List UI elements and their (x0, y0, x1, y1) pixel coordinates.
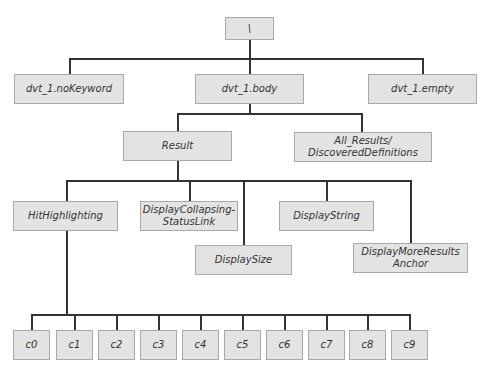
connector (367, 314, 369, 330)
connector (74, 314, 76, 330)
node-c3: c3 (140, 330, 177, 360)
connector (249, 40, 251, 58)
connector (66, 231, 68, 314)
node-c8: c8 (349, 330, 386, 360)
connector (189, 180, 191, 201)
connector (31, 314, 410, 316)
connector (116, 314, 118, 330)
connector (177, 113, 362, 115)
connector (249, 58, 251, 74)
node-displaymoreresults: DisplayMoreResults Anchor (353, 243, 468, 273)
node-hithighlighting: HitHighlighting (13, 201, 118, 231)
connector (69, 58, 71, 74)
connector (422, 58, 424, 74)
node-root: \ (225, 17, 274, 40)
connector (200, 314, 202, 330)
tree-diagram: \ dvt_1.noKeyword dvt_1.body dvt_1.empty… (0, 0, 489, 373)
connector (284, 314, 286, 330)
connector (66, 180, 411, 182)
node-c9: c9 (391, 330, 428, 360)
node-c7: c7 (308, 330, 345, 360)
node-c2: c2 (98, 330, 135, 360)
connector (242, 314, 244, 330)
connector (410, 180, 412, 243)
connector (158, 314, 160, 330)
connector (69, 58, 423, 60)
node-c5: c5 (224, 330, 261, 360)
connector (326, 314, 328, 330)
node-nokeyword: dvt_1.noKeyword (14, 74, 124, 104)
connector (326, 180, 328, 201)
node-c4: c4 (182, 330, 219, 360)
node-empty: dvt_1.empty (368, 74, 477, 104)
node-all-results: All_Results/ DiscoveredDefinitions (294, 132, 432, 162)
connector (177, 161, 179, 180)
connector (249, 104, 251, 113)
node-displaycollapsing: DisplayCollapsing- StatusLink (140, 201, 238, 231)
connector (361, 113, 363, 132)
node-result: Result (123, 131, 232, 161)
connector (31, 314, 33, 330)
node-displaysize: DisplaySize (195, 245, 292, 275)
node-c1: c1 (56, 330, 93, 360)
connector (243, 180, 245, 245)
node-c0: c0 (13, 330, 50, 360)
connector (66, 180, 68, 201)
node-body: dvt_1.body (195, 74, 304, 104)
connector (409, 314, 411, 330)
connector (177, 113, 179, 131)
node-c6: c6 (266, 330, 303, 360)
node-displaystring: DisplayString (279, 201, 374, 231)
